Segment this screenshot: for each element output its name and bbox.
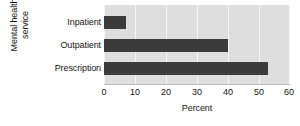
x-tick-label-10: 10 (123, 87, 147, 97)
x-tick-label-0: 0 (92, 87, 116, 97)
plot-area (104, 5, 290, 84)
x-tick-label-60: 60 (277, 87, 300, 97)
x-tick-label-50: 50 (247, 87, 271, 97)
bar-prescription (104, 62, 268, 75)
bar-inpatient (104, 16, 126, 29)
x-axis-title: Percent (104, 103, 290, 113)
category-label-inpatient: Inpatient (31, 17, 101, 27)
bar-outpatient (104, 39, 228, 52)
x-tick-label-40: 40 (216, 87, 240, 97)
x-axis-line (104, 84, 290, 85)
category-label-prescription: Prescription (31, 63, 101, 73)
x-tick-label-30: 30 (185, 87, 209, 97)
category-label-outpatient: Outpatient (31, 40, 101, 50)
horizontal-bar-chart: Mental health service Inpatient Outpatie… (0, 0, 300, 126)
x-tick-label-20: 20 (154, 87, 178, 97)
category-axis-labels: Inpatient Outpatient Prescription (28, 0, 101, 126)
gridline-60 (289, 5, 290, 84)
